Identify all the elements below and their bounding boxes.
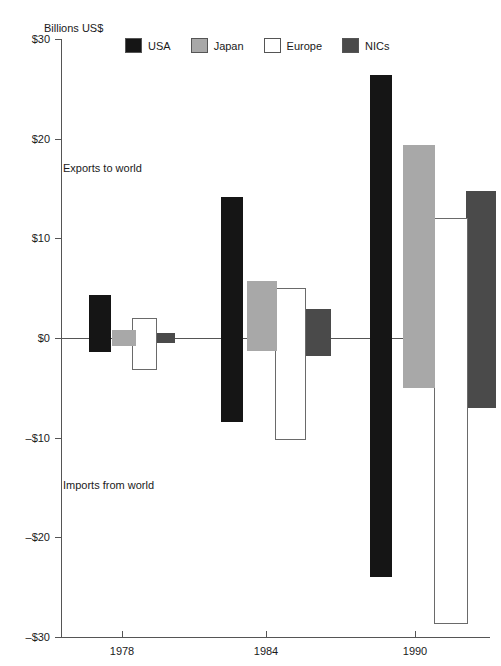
legend-label: NICs [365, 40, 389, 52]
y-tick-label: –$30 [0, 631, 50, 643]
y-tick-label: $30 [0, 33, 50, 45]
exports-region-label: Exports to world [63, 162, 142, 174]
y-tick-mark [55, 438, 62, 439]
bar-usa-1984[interactable] [221, 197, 243, 421]
legend-item-europe[interactable]: Europe [264, 38, 322, 53]
bar-europe-1990[interactable] [434, 218, 468, 624]
legend-label: USA [148, 40, 171, 52]
legend-item-nics[interactable]: NICs [342, 38, 389, 53]
y-tick-label: –$10 [0, 432, 50, 444]
y-tick-label: $20 [0, 133, 50, 145]
bar-nics-1990[interactable] [466, 191, 496, 407]
y-tick-mark [55, 139, 62, 140]
y-tick-label: $10 [0, 232, 50, 244]
x-axis-line [61, 637, 490, 638]
legend-swatch-icon [264, 38, 281, 53]
bar-europe-1984[interactable] [275, 288, 306, 439]
legend-swatch-icon [125, 38, 142, 53]
y-axis-unit-label: Billions US$ [44, 22, 103, 34]
y-tick-mark [55, 238, 62, 239]
x-tick-label: 1978 [110, 645, 134, 657]
chart-canvas: Billions US$ USAJapanEuropeNICs $30$20$1… [0, 0, 501, 666]
x-tick-mark [415, 631, 416, 638]
legend-swatch-icon [342, 38, 359, 53]
bar-japan-1978[interactable] [112, 330, 136, 346]
bar-japan-1984[interactable] [247, 281, 277, 351]
x-tick-label: 1984 [254, 645, 278, 657]
y-tick-label: $0 [0, 332, 50, 344]
y-tick-mark [55, 39, 62, 40]
legend-swatch-icon [191, 38, 208, 53]
bar-nics-1984[interactable] [305, 309, 331, 356]
y-tick-label: –$20 [0, 531, 50, 543]
legend-item-usa[interactable]: USA [125, 38, 171, 53]
y-tick-mark [55, 637, 62, 638]
legend-label: Europe [287, 40, 322, 52]
x-tick-mark [266, 631, 267, 638]
legend-label: Japan [214, 40, 244, 52]
bar-usa-1990[interactable] [370, 75, 392, 577]
imports-region-label: Imports from world [63, 479, 154, 491]
x-tick-label: 1990 [403, 645, 427, 657]
chart-legend: USAJapanEuropeNICs [125, 38, 390, 53]
bar-japan-1990[interactable] [403, 145, 435, 388]
y-tick-mark [55, 537, 62, 538]
bar-usa-1978[interactable] [89, 295, 111, 352]
x-tick-mark [122, 631, 123, 638]
legend-item-japan[interactable]: Japan [191, 38, 244, 53]
